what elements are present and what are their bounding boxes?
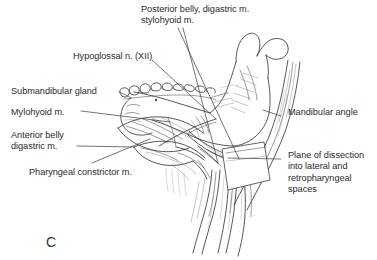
- teeth-row: [120, 83, 216, 100]
- mylohyoid-muscle: [118, 117, 203, 152]
- label-hypoglossal-nerve: Hypoglossal n. (XII): [73, 51, 152, 62]
- label-pharyngeal-constrictor: Pharyngeal constrictor m.: [29, 167, 132, 178]
- soft-tissue-edges: [210, 85, 239, 108]
- pharyngeal-constrictor: [166, 147, 204, 196]
- dissection-plane-flap: [222, 142, 270, 190]
- leader-anterior-belly: [77, 146, 134, 147]
- panel-letter: C: [46, 234, 56, 250]
- leader-posterior-belly-b: [183, 28, 218, 163]
- mandible-group: [134, 33, 288, 146]
- leader-lines: [77, 28, 281, 163]
- label-mylohyoid-muscle: Mylohyoid m.: [11, 107, 65, 118]
- label-anterior-belly-digastric: Anterior belly digastric m.: [11, 130, 64, 153]
- label-plane-of-dissection: Plane of dissection into lateral and ret…: [288, 150, 364, 196]
- label-mandibular-angle: Mandibular angle: [288, 107, 358, 118]
- leader-posterior-belly-a: [178, 28, 239, 159]
- label-submandibular-gland: Submandibular gland: [11, 86, 97, 97]
- anatomical-figure: .ink { fill:none; stroke:#3a3a3a; stroke…: [0, 0, 377, 260]
- leader-pharyngeal-constrictor: [92, 139, 150, 163]
- label-posterior-belly-digastric-stylohyoid: Posterior belly, digastric m. stylohyoid…: [141, 4, 249, 27]
- leader-mandibular-angle: [263, 110, 281, 116]
